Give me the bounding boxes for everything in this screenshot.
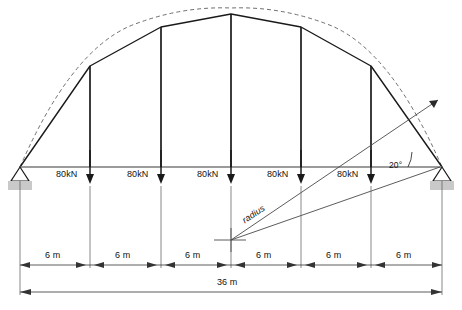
load-label: 80kN <box>197 169 218 179</box>
segment-dimension-label: 6 m <box>256 250 271 260</box>
segment-dimension-label: 6 m <box>326 250 341 260</box>
segment-dimension-label: 6 m <box>115 250 130 260</box>
radius-line-upper <box>231 100 438 240</box>
segment-dimension-label: 6 m <box>396 250 411 260</box>
radius-arrowhead <box>429 100 438 108</box>
angle-arc <box>408 152 412 167</box>
segment-dimension-label: 6 m <box>45 250 60 260</box>
load-label: 80kN <box>337 169 358 179</box>
load-label: 80kN <box>267 169 288 179</box>
diagram-canvas: 80kN 80kN 80kN 80kN 80kN 20° radius 6 m … <box>0 0 462 310</box>
angle-label: 20° <box>389 160 402 170</box>
segment-dimension-label: 6 m <box>185 250 200 260</box>
diagram-svg <box>0 0 462 310</box>
load-label: 80kN <box>127 169 148 179</box>
hangers <box>90 14 371 167</box>
span-dimension-label: 36 m <box>217 277 237 287</box>
load-label: 80kN <box>56 169 77 179</box>
radius-center-mark <box>214 228 246 252</box>
radius-line-lower <box>231 167 440 240</box>
radius-lines <box>231 100 440 240</box>
